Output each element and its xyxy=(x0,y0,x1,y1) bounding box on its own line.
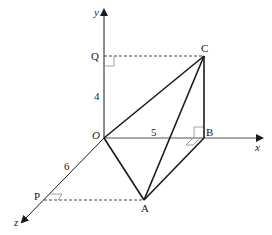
point-label-A: A xyxy=(141,202,149,214)
point-label-Q: Q xyxy=(91,50,99,62)
right-angle-mark-Q xyxy=(104,56,114,66)
segment-AB xyxy=(144,138,204,200)
y-axis-label: y xyxy=(93,6,99,18)
x-axis-label: x xyxy=(254,141,260,153)
diagram-canvas: y x z O Q C B A P 4 5 6 xyxy=(0,0,272,235)
point-label-B: B xyxy=(206,126,213,138)
segment-OA xyxy=(104,138,144,200)
dimension-label-OQ: 4 xyxy=(94,90,100,102)
z-axis xyxy=(22,138,104,222)
z-axis-label: z xyxy=(13,216,19,228)
right-angle-mark-B-vertical xyxy=(194,127,204,138)
point-label-P: P xyxy=(34,190,40,202)
right-angle-mark-P xyxy=(50,194,62,200)
dimension-label-OP: 6 xyxy=(64,160,70,172)
origin-label: O xyxy=(92,129,100,141)
coordinate-diagram: y x z O Q C B A P 4 5 6 xyxy=(0,0,272,235)
dimension-label-OB: 5 xyxy=(151,126,157,138)
point-label-C: C xyxy=(201,42,208,54)
